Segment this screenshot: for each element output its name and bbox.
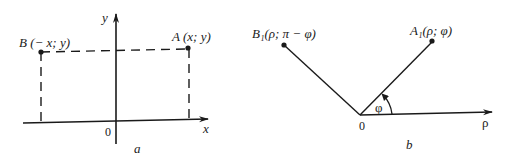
point-b-label: B (− x; y) bbox=[19, 35, 70, 50]
ray-to-a1 bbox=[360, 42, 432, 115]
point-a bbox=[185, 45, 190, 50]
point-b1-label: B₁(ρ; π − φ) bbox=[252, 26, 316, 41]
x-axis-label: x bbox=[202, 121, 209, 136]
y-axis-label: y bbox=[100, 10, 108, 25]
origin-label-b: 0 bbox=[359, 119, 365, 133]
point-a1 bbox=[429, 38, 434, 43]
panel-a: B (− x; y) A (x; y) y x 0 a bbox=[19, 10, 211, 156]
point-b bbox=[38, 49, 43, 54]
angle-arc bbox=[383, 95, 392, 114]
panel-b: B₁(ρ; π − φ) A₁(ρ; φ) φ 0 ρ b bbox=[252, 23, 492, 152]
figure-canvas: B (− x; y) A (x; y) y x 0 a B₁(ρ; π − φ)… bbox=[0, 0, 505, 163]
caption-a: a bbox=[134, 141, 141, 156]
polar-axis-label: ρ bbox=[482, 115, 489, 130]
angle-label: φ bbox=[375, 100, 383, 115]
point-a1-label: A₁(ρ; φ) bbox=[409, 23, 452, 38]
ray-to-b1 bbox=[284, 45, 360, 115]
point-a-label: A (x; y) bbox=[171, 29, 211, 44]
caption-b: b bbox=[406, 137, 413, 152]
point-b1 bbox=[281, 42, 286, 47]
origin-label-a: 0 bbox=[105, 125, 111, 139]
